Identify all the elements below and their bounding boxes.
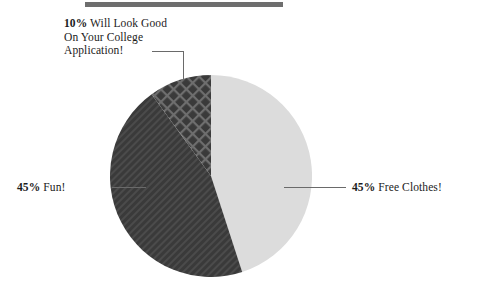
pie-chart <box>110 75 312 277</box>
pie-svg <box>110 75 312 277</box>
slice-label-free-clothes: 45% Free Clothes! <box>352 181 442 195</box>
leader-line-fun <box>112 187 146 188</box>
leader-line-free-clothes <box>284 187 346 188</box>
slice-text-free-clothes: Free Clothes! <box>378 181 442 193</box>
slice-label-college-application: 10% Will Look Good On Your College Appli… <box>64 17 184 58</box>
slice-label-fun: 45% Fun! <box>17 181 65 195</box>
slice-percent-free-clothes: 45% <box>352 181 375 193</box>
chart-canvas: 10% Will Look Good On Your College Appli… <box>0 0 477 295</box>
slice-text-fun: Fun! <box>43 181 65 193</box>
top-divider-rule <box>85 2 283 7</box>
slice-percent-college-application: 10% <box>64 17 87 29</box>
slice-percent-fun: 45% <box>17 181 40 193</box>
